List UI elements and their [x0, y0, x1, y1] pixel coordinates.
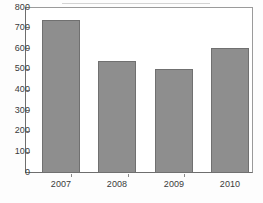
chart-figure: 800 700 600 500 400 300 200 100 0 [0, 0, 263, 203]
x-tick-label-2008: 2008 [107, 180, 127, 189]
bar-2010 [211, 48, 249, 173]
bar-chart-screenshot: 800 700 600 500 400 300 200 100 0 [0, 0, 263, 203]
bar-2007 [42, 20, 80, 173]
x-tick-label-2010: 2010 [220, 180, 240, 189]
bars-layer [26, 8, 252, 173]
x-tick-mark-2 [128, 174, 129, 177]
bar-2009 [155, 69, 193, 173]
bar-2008 [98, 61, 136, 173]
x-tick-mark-3 [184, 174, 185, 177]
x-tick-mark-1 [71, 174, 72, 177]
x-tick-label-2007: 2007 [51, 180, 71, 189]
x-tick-label-2009: 2009 [164, 180, 184, 189]
